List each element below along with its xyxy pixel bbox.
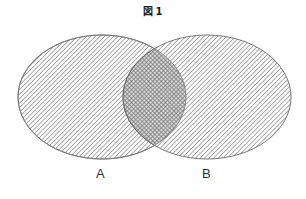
venn-diagram [0,0,306,199]
set-b-label: B [202,166,211,181]
set-a-label: A [96,166,105,181]
